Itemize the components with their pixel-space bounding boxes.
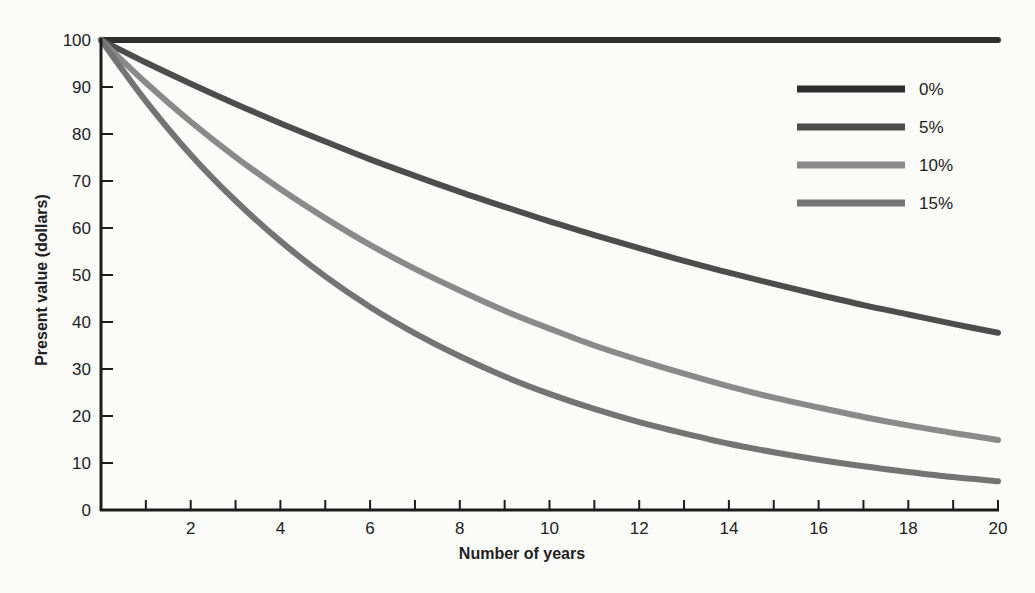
y-tick-label: 30 bbox=[72, 360, 91, 379]
legend-item: 15% bbox=[797, 194, 953, 213]
legend-label: 0% bbox=[919, 80, 944, 99]
x-tick-label: 8 bbox=[455, 519, 464, 538]
y-tick-label: 100 bbox=[63, 31, 91, 50]
y-tick-label: 0 bbox=[82, 501, 91, 520]
present-value-chart: 0102030405060708090100 2468101214161820 … bbox=[0, 0, 1035, 593]
data-series bbox=[101, 40, 998, 481]
legend-label: 15% bbox=[919, 194, 953, 213]
y-tick-label: 10 bbox=[72, 454, 91, 473]
series-line-10pct bbox=[101, 40, 998, 440]
x-tick-label: 4 bbox=[276, 519, 285, 538]
legend: 0%5%10%15% bbox=[797, 80, 953, 213]
legend-item: 10% bbox=[797, 156, 953, 175]
y-tick-label: 40 bbox=[72, 313, 91, 332]
y-tick-label: 90 bbox=[72, 78, 91, 97]
x-tick-label: 2 bbox=[186, 519, 195, 538]
legend-label: 5% bbox=[919, 118, 944, 137]
y-tick-label: 20 bbox=[72, 407, 91, 426]
x-tick-label: 18 bbox=[899, 519, 918, 538]
x-axis-title: Number of years bbox=[459, 545, 585, 562]
series-line-5pct bbox=[101, 40, 998, 333]
x-tick-label: 10 bbox=[540, 519, 559, 538]
y-tick-label: 60 bbox=[72, 219, 91, 238]
y-axis-title: Present value (dollars) bbox=[33, 194, 50, 366]
x-tick-label: 12 bbox=[630, 519, 649, 538]
x-axis-ticks: 2468101214161820 bbox=[146, 500, 1008, 538]
y-tick-label: 50 bbox=[72, 266, 91, 285]
legend-item: 5% bbox=[797, 118, 944, 137]
x-tick-label: 6 bbox=[365, 519, 374, 538]
y-tick-label: 80 bbox=[72, 125, 91, 144]
legend-item: 0% bbox=[797, 80, 944, 99]
y-tick-label: 70 bbox=[72, 172, 91, 191]
legend-label: 10% bbox=[919, 156, 953, 175]
x-tick-label: 14 bbox=[719, 519, 738, 538]
x-tick-label: 20 bbox=[989, 519, 1008, 538]
x-tick-label: 16 bbox=[809, 519, 828, 538]
y-axis-ticks: 0102030405060708090100 bbox=[63, 31, 113, 520]
